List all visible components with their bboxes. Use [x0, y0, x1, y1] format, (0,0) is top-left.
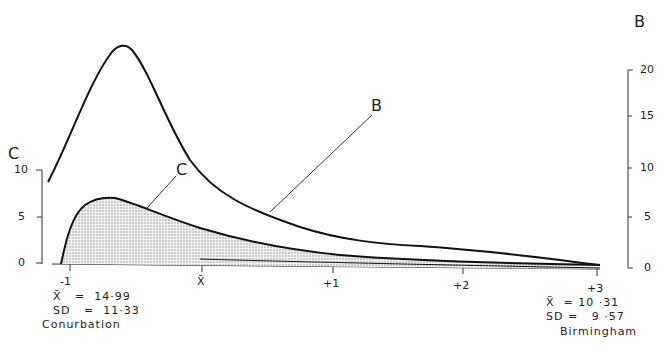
left-axis-letter: C	[8, 144, 19, 163]
right-axis	[628, 70, 633, 268]
left-tick-0: 0	[18, 256, 25, 269]
right-axis-letter: B	[634, 12, 645, 31]
right-tick-10: 10	[640, 161, 654, 174]
left-axis	[36, 170, 42, 264]
left-tick-5: 5	[18, 210, 25, 223]
right-tick-5: 5	[644, 210, 651, 223]
x-tick-mean: X̄	[197, 275, 205, 288]
left-region-name: Conurbation	[42, 318, 121, 331]
right-sd-stat: SD = 9 ·57	[546, 310, 625, 323]
x-tick-minus1: -1	[60, 275, 71, 288]
left-mean-stat: X̄ = 14·99	[53, 290, 131, 303]
curve-c-label: C	[176, 160, 187, 179]
right-tick-15: 15	[640, 109, 654, 122]
curve-c-area	[61, 198, 600, 269]
curve-c-leader	[147, 176, 176, 208]
x-tick-plus2: +2	[453, 279, 469, 292]
x-tick-plus3: +3	[587, 282, 603, 295]
left-tick-10: 10	[14, 163, 28, 176]
right-tick-20: 20	[640, 63, 654, 76]
curve-b-label: B	[371, 96, 382, 115]
right-tick-0: 0	[644, 261, 651, 274]
curve-b-leader	[270, 115, 372, 212]
x-tick-plus1: +1	[323, 277, 339, 290]
right-mean-stat: X̄ = 10 ·31	[546, 296, 619, 309]
left-sd-stat: SD = 11·33	[53, 304, 140, 317]
right-region-name: Birmingham	[560, 325, 637, 338]
